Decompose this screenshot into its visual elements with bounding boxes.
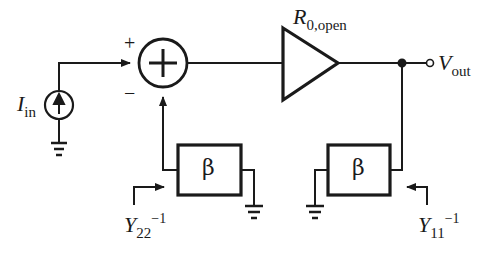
current-source-icon [45,91,73,142]
right-beta-label: β [352,155,365,180]
wire-output-to-right-beta [390,63,402,170]
y11-symbol: Y [418,212,430,237]
ground-icon [306,206,324,218]
feedback-diagram: Iin + − R0,open Vout β β Y22−1 Y11−1 [0,0,487,254]
minus-sign: − [124,82,135,105]
summing-junction-icon [139,39,187,87]
amplifier-subscript: 0,open [306,17,346,33]
output-label: Vout [438,50,471,76]
amplifier-label: R0,open [293,4,347,30]
wire-right-beta-ground [315,170,328,205]
y22-subscript: 22 [136,225,151,241]
diagram-canvas [0,0,487,254]
wire-source-to-summer [59,63,130,91]
output-symbol: V [438,50,451,75]
wire-left-beta-to-summer [163,97,178,170]
output-subscript: out [451,63,470,79]
output-terminal-icon[interactable] [427,60,434,67]
ground-icon [51,143,67,155]
y22-symbol: Y [124,212,136,237]
amplifier-triangle-icon [283,28,338,100]
amplifier-symbol: R [293,4,306,29]
y11-subscript: 11 [430,225,444,241]
source-label: Iin [17,91,36,117]
source-subscript: in [24,104,36,120]
plus-sign: + [124,32,135,55]
y11-superscript: −1 [445,211,460,226]
y11-label: Y11−1 [418,212,460,238]
y22-port-arrow-icon [134,187,164,205]
y11-port-arrow-icon [407,187,427,205]
y22-superscript: −1 [151,211,166,226]
y22-label: Y22−1 [124,212,166,238]
wire-left-beta-ground [241,170,254,205]
ground-icon [245,206,263,218]
left-beta-label: β [202,155,215,180]
